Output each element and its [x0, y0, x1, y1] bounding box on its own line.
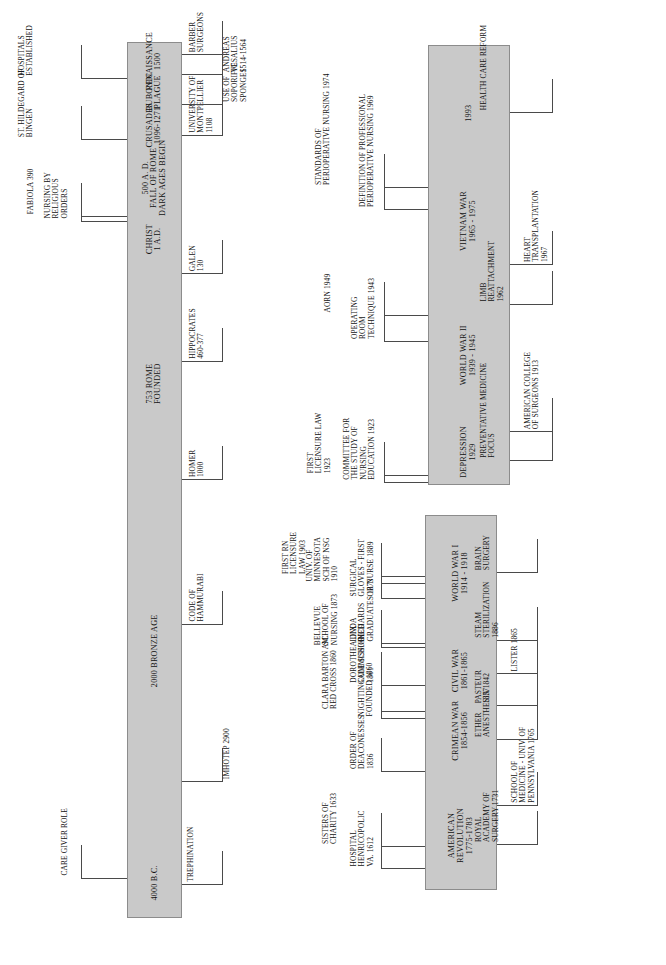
event-tick — [384, 209, 428, 210]
event-tick — [182, 74, 222, 75]
band-modern-inner: AMERICAN REVOLUTION 1775-1783CRIMEAN WAR… — [425, 515, 666, 890]
event-caption: SISTERS OF CHARITY 1633 — [322, 694, 339, 844]
event-caption: IMHOTEP 2900 — [223, 629, 231, 779]
event-leader — [537, 706, 538, 740]
event-caption: STANDARDS OF PERIOPERATIVE NURSING 1974 — [315, 35, 332, 185]
event-tick — [381, 771, 425, 772]
era-label: WORLD WAR II 1939 - 1945 — [460, 315, 478, 395]
event-tick — [381, 598, 425, 599]
event-tick — [510, 112, 552, 113]
event-caption: COMMITTEE FOR THE STUDY OF NURSING EDUCA… — [343, 330, 376, 480]
event-caption: HEALTH CARE REFORM — [480, 0, 488, 110]
era-label: 1993 — [465, 73, 474, 153]
event-tick — [182, 54, 222, 55]
event-leader — [81, 845, 82, 879]
event-tick — [497, 673, 537, 674]
event-tick — [510, 304, 552, 305]
event-tick — [381, 643, 425, 644]
event-leader — [552, 271, 553, 305]
event-tick — [384, 482, 428, 483]
event-leader — [537, 811, 538, 845]
band-modern: AMERICAN REVOLUTION 1775-1783CRIMEAN WAR… — [425, 515, 666, 890]
event-tick — [384, 341, 428, 342]
era-label: 753 ROME FOUNDED — [146, 344, 164, 424]
event-leader — [384, 154, 385, 188]
event-tick — [81, 878, 127, 879]
event-leader — [537, 772, 538, 806]
event-caption: AMERICAN COLLEGE OF SURGEONS 1913 — [524, 279, 541, 429]
event-tick — [497, 640, 537, 641]
event-leader — [552, 231, 553, 265]
event-leader — [222, 851, 223, 885]
event-caption: CARE GIVER ROLE — [61, 726, 69, 876]
event-caption: HEART TRANSPLANTATION 1967 — [524, 112, 549, 262]
event-leader — [381, 614, 382, 648]
event-leader — [81, 45, 82, 79]
event-tick — [497, 739, 537, 740]
event-tick — [384, 187, 428, 188]
event-tick — [381, 868, 425, 869]
event-leader — [222, 591, 223, 625]
event-tick — [182, 273, 222, 274]
event-caption: DEFINITION OF PROFESSIONAL PERIOPERATIVE… — [359, 57, 376, 207]
event-tick — [384, 475, 428, 476]
event-tick — [182, 884, 222, 885]
event-tick — [182, 624, 222, 625]
event-tick — [381, 576, 425, 577]
event-leader — [552, 79, 553, 113]
era-label: VIETNAM WAR 1965 - 1975 — [460, 181, 478, 261]
event-tick — [381, 685, 425, 686]
event-leader — [222, 102, 223, 136]
event-caption: CODE OF HAMMURABI — [189, 472, 206, 622]
event-leader — [381, 738, 382, 772]
event-caption: HOSPITALS ESTABLISHED — [18, 0, 35, 76]
event-tick — [182, 104, 222, 105]
era-label: DEPRESSION 1929 — [460, 412, 478, 492]
event-leader — [381, 813, 382, 847]
event-leader — [537, 607, 538, 641]
event-tick — [381, 718, 425, 719]
event-caption: AORN 1949 — [324, 163, 332, 313]
timeline-canvas: 4000 B.C.2000 BRONZE AGE753 ROME FOUNDED… — [0, 0, 666, 965]
era-label: 4000 B.C. — [150, 843, 159, 923]
event-tick — [497, 805, 537, 806]
event-tick — [497, 844, 537, 845]
event-leader — [222, 21, 223, 55]
event-tick — [510, 264, 552, 265]
event-caption: BARBER SURGEONS — [189, 0, 206, 52]
event-caption: NURSING BY RELIGIOUS ORDERS — [44, 69, 69, 219]
event-leader — [384, 442, 385, 476]
event-tick — [81, 216, 127, 217]
event-tick — [497, 705, 537, 706]
event-leader — [552, 398, 553, 432]
era-label: RENAISSANCE 1500 — [146, 21, 164, 101]
event-tick — [381, 711, 425, 712]
event-caption: FIRST RN LICENSURE LAW 1903 — [282, 424, 307, 574]
event-leader — [81, 188, 82, 222]
event-caption: ANDREAS VESALIUS 1514-1564 — [223, 0, 248, 72]
band-contemporary: DEPRESSION 1929WORLD WAR II 1939 - 1945V… — [428, 45, 666, 485]
event-caption: SCHOOL OF MEDICINE - UNIV. OF PENNSYLVAN… — [511, 653, 536, 803]
event-tick — [182, 361, 222, 362]
event-leader — [384, 282, 385, 316]
event-tick — [182, 135, 222, 136]
event-leader — [381, 543, 382, 577]
event-tick — [510, 431, 552, 432]
event-leader — [222, 446, 223, 480]
event-caption: FIRST LICENSURE LAW 1923 — [307, 323, 332, 473]
era-label: AMERICAN REVOLUTION 1775-1783 — [448, 796, 475, 876]
event-tick — [381, 647, 425, 648]
event-tick — [381, 583, 425, 584]
event-tick — [81, 221, 127, 222]
band-contemporary-inner: DEPRESSION 1929WORLD WAR II 1939 - 1945V… — [428, 45, 666, 485]
event-leader — [81, 106, 82, 140]
event-caption: LIMB REATTACHMENT 1962 — [480, 152, 505, 302]
event-tick — [81, 139, 127, 140]
event-leader — [537, 539, 538, 573]
era-label: CIVIL WAR 1861-1865 — [452, 631, 470, 711]
event-caption: PREVENTATIVE MEDICINE FOCUS — [480, 308, 497, 458]
event-caption: LISTER 1865 — [511, 521, 519, 671]
event-caption: GALEN 130 — [189, 121, 206, 271]
event-tick — [381, 846, 425, 847]
era-label: 2000 BRONZE AGE — [150, 611, 159, 691]
